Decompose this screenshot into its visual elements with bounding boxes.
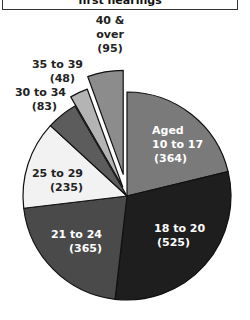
slice-label-text: over: [96, 28, 124, 41]
slice-label-text: (525): [157, 236, 190, 249]
slice-label-text: 25 to 29: [32, 167, 83, 180]
slice-label-text: (83): [32, 100, 57, 113]
pie-chart: Aged10 to 17(364)18 to 20(525)21 to 24(3…: [0, 0, 250, 320]
slice-label-text: 40 &: [96, 14, 125, 27]
slice-label-text: (48): [50, 72, 75, 85]
label-30-34: 30 to 34(83): [15, 86, 66, 113]
slice-label-text: 30 to 34: [15, 86, 66, 99]
slice-label-text: 10 to 17: [152, 138, 203, 151]
label-35-39: 35 to 39(48): [32, 58, 83, 85]
slice-label-text: (95): [97, 42, 122, 55]
slice-label-text: (235): [50, 181, 83, 194]
slice-label-text: 35 to 39: [32, 58, 83, 71]
slice-label-text: 18 to 20: [154, 222, 205, 235]
slice-label-text: 21 to 24: [51, 228, 102, 241]
slice-label-text: (364): [154, 152, 187, 165]
slice-label-text: Aged: [152, 124, 184, 137]
label-40-over: 40 &over(95): [96, 14, 125, 55]
slice-label-text: (365): [69, 242, 102, 255]
